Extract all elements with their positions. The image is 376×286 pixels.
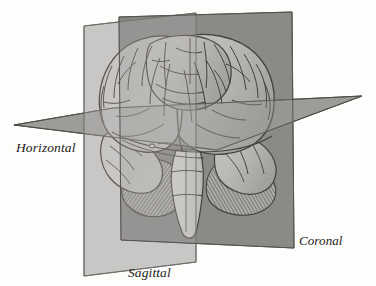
coronal-plane-front xyxy=(119,12,294,248)
horizontal-plane-label: Horizontal xyxy=(15,140,76,155)
coronal-plane-label: Coronal xyxy=(299,233,343,248)
sagittal-plane-label: Sagittal xyxy=(128,265,171,280)
anatomical-planes-figure: Horizontal Sagittal Coronal xyxy=(0,0,376,286)
brain-planes-illustration: Horizontal Sagittal Coronal xyxy=(0,0,376,286)
